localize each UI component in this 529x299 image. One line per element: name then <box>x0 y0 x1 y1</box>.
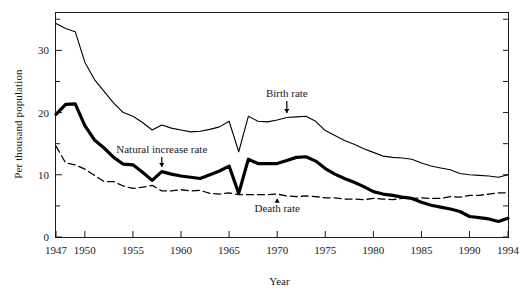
y-tick-label: 20 <box>38 107 50 119</box>
annotation-label-natural-increase-rate: Natural increase rate <box>116 143 207 155</box>
x-tick-label: 1965 <box>218 244 241 256</box>
y-tick-label: 30 <box>38 44 50 56</box>
x-tick-label: 1985 <box>410 244 433 256</box>
annotation-arrow-head <box>284 109 289 113</box>
x-tick-label: 1955 <box>122 244 145 256</box>
y-axis-label: Per thousand population <box>12 44 24 204</box>
chart-figure: Per thousand population 0102030 19471950… <box>0 0 529 299</box>
annotation-arrow-head <box>275 199 280 203</box>
x-tick-label: 1950 <box>74 244 97 256</box>
annotation-label-death-rate: Death rate <box>254 202 300 214</box>
data-series-group <box>56 24 508 222</box>
x-tick-label: 1947 <box>45 244 68 256</box>
line-chart-svg: 0102030 19471950195519601965197019751980… <box>0 0 529 299</box>
annotation-arrow-head <box>159 163 164 167</box>
x-tick-label: 1960 <box>170 244 193 256</box>
x-tick-label: 1970 <box>266 244 289 256</box>
x-tick-label: 1980 <box>362 244 385 256</box>
annotation-label-birth-rate: Birth rate <box>266 87 308 99</box>
y-tick-label: 10 <box>38 169 50 181</box>
x-axis-ticks: 1947195019551960196519701975198019851990… <box>45 231 520 256</box>
y-tick-label: 0 <box>44 231 50 243</box>
x-tick-label: 1975 <box>314 244 337 256</box>
x-axis-label: Year <box>0 275 529 287</box>
x-tick-label: 1994 <box>497 244 520 256</box>
x-tick-label: 1990 <box>459 244 482 256</box>
x-axis-label-text: Year <box>269 275 289 287</box>
